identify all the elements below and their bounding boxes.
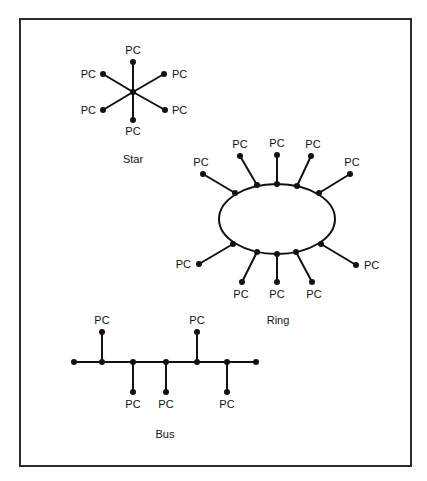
pc-label: PC [125, 398, 140, 410]
ring-link [203, 174, 235, 193]
star-link [133, 92, 165, 110]
pc-node [100, 71, 106, 77]
pc-label: PC [305, 138, 320, 150]
ring-junction-node [293, 249, 299, 255]
pc-label: PC [81, 68, 96, 80]
pc-label: PC [306, 288, 321, 300]
pc-node [308, 153, 314, 159]
bus-junction-node [130, 359, 136, 365]
pc-node [99, 329, 105, 335]
pc-node [162, 107, 168, 113]
pc-label: PC [125, 44, 140, 56]
pc-label: PC [158, 398, 173, 410]
pc-node [163, 389, 169, 395]
pc-label: PC [189, 314, 204, 326]
star-link [133, 74, 164, 92]
bus-junction-node [224, 359, 230, 365]
pc-label: PC [81, 104, 96, 116]
pc-label: PC [125, 125, 140, 137]
pc-node [239, 279, 245, 285]
pc-node [353, 262, 359, 268]
bus-junction-node [163, 359, 169, 365]
pc-node [274, 152, 280, 158]
star-link [103, 92, 133, 110]
ring-topology: PCPCPCPCPCPCPCPCPCPC [176, 137, 380, 300]
pc-label: PC [269, 288, 284, 300]
pc-node [194, 329, 200, 335]
ring-link [321, 244, 356, 265]
pc-node [130, 389, 136, 395]
pc-label: PC [344, 156, 359, 168]
star-hub-node [130, 89, 136, 95]
pc-node [309, 279, 315, 285]
bus-junction-node [194, 359, 200, 365]
pc-label: PC [172, 104, 187, 116]
pc-label: PC [233, 288, 248, 300]
ring-junction-node [316, 190, 322, 196]
star-title: Star [123, 153, 144, 165]
ring-link [242, 252, 257, 282]
pc-node [347, 171, 353, 177]
ring-junction-node [318, 241, 324, 247]
ring-link [319, 174, 350, 193]
pc-label: PC [219, 398, 234, 410]
pc-label: PC [193, 156, 208, 168]
pc-node [130, 117, 136, 123]
pc-label: PC [232, 138, 247, 150]
pc-label: PC [364, 259, 379, 271]
ring-junction-node [254, 182, 260, 188]
pc-node [237, 153, 243, 159]
pc-node [200, 171, 206, 177]
ring-junction-node [274, 251, 280, 257]
pc-node [224, 389, 230, 395]
bus-title: Bus [156, 428, 175, 440]
pc-label: PC [269, 137, 284, 149]
star-topology: PCPCPCPCPCPC [81, 44, 188, 137]
ring-link [199, 244, 233, 264]
bus-junction-node [99, 359, 105, 365]
network-topologies-diagram: PCPCPCPCPCPC Star PCPCPCPCPCPCPCPCPCPC R… [0, 0, 427, 481]
ring-junction-node [230, 241, 236, 247]
bus-topology: PCPCPCPCPC [71, 314, 259, 410]
pc-label: PC [94, 314, 109, 326]
bus-terminator-node [253, 359, 259, 365]
bus-terminator-node [71, 359, 77, 365]
ring-junction-node [232, 190, 238, 196]
pc-node [130, 59, 136, 65]
pc-node [274, 279, 280, 285]
ring-link [240, 156, 257, 185]
ring-junction-node [294, 183, 300, 189]
pc-label: PC [176, 258, 191, 270]
ring-link [297, 156, 311, 186]
figure-frame [20, 19, 411, 466]
ring-link [296, 252, 312, 282]
ring-junction-node [274, 181, 280, 187]
pc-label: PC [172, 68, 187, 80]
pc-node [196, 261, 202, 267]
ring-junction-node [254, 249, 260, 255]
pc-node [100, 107, 106, 113]
ring-title: Ring [267, 314, 290, 326]
pc-node [161, 71, 167, 77]
star-link [103, 74, 133, 92]
